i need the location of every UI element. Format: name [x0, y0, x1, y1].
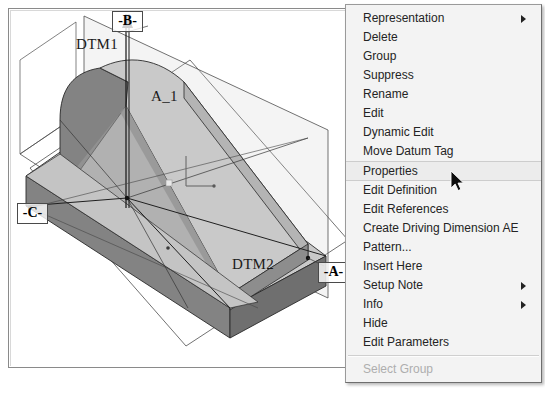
menu-item-label: Edit [363, 106, 384, 120]
menu-item-label: Dynamic Edit [363, 125, 434, 139]
menu-item-label: Setup Note [363, 278, 423, 292]
menu-item-edit-definition[interactable]: Edit Definition [346, 181, 541, 200]
cad-label-dtm1: DTM1 [76, 36, 118, 53]
menu-item-select-group: Select Group [346, 360, 541, 379]
cad-label-axis-a1: A_1 [151, 88, 178, 105]
datum-tag-c[interactable]: -C- [17, 203, 48, 224]
menu-item-delete[interactable]: Delete [346, 28, 541, 47]
screenshot-root: DTM1 DTM2 A_1 -B- -C- -A- Representation… [0, 0, 545, 395]
menu-item-edit-references[interactable]: Edit References [346, 200, 541, 219]
menu-item-representation[interactable]: Representation [346, 9, 541, 28]
menu-item-edit[interactable]: Edit [346, 104, 541, 123]
menu-item-hide[interactable]: Hide [346, 314, 541, 333]
datum-point-marker-4 [166, 246, 170, 250]
menu-item-label: Edit Parameters [363, 335, 449, 349]
menu-item-label: Info [363, 297, 383, 311]
cad-model-svg [8, 8, 368, 368]
menu-item-dynamic-edit[interactable]: Dynamic Edit [346, 123, 541, 142]
menu-item-label: Select Group [363, 362, 433, 376]
menu-item-label: Edit Definition [363, 183, 437, 197]
menu-item-properties[interactable]: Properties [346, 161, 541, 181]
menu-item-label: Create Driving Dimension AE [363, 221, 518, 235]
caption-strip [0, 386, 545, 395]
datum-tag-b[interactable]: -B- [112, 11, 143, 32]
menu-item-label: Rename [363, 87, 408, 101]
datum-point-marker-1 [125, 196, 129, 200]
menu-item-group[interactable]: Group [346, 47, 541, 66]
menu-item-label: Group [363, 49, 396, 63]
menu-item-label: Hide [363, 316, 388, 330]
menu-separator [348, 355, 539, 357]
menu-item-insert-here[interactable]: Insert Here [346, 257, 541, 276]
chevron-right-icon [521, 282, 526, 290]
feature-context-menu[interactable]: Representation Delete Group Suppress Ren… [345, 4, 542, 383]
chevron-right-icon [521, 15, 526, 23]
menu-item-label: Insert Here [363, 259, 422, 273]
menu-item-info[interactable]: Info [346, 295, 541, 314]
menu-item-label: Suppress [363, 68, 414, 82]
menu-item-label: Properties [363, 164, 418, 178]
menu-item-create-driving-dimension-ae[interactable]: Create Driving Dimension AE [346, 219, 541, 238]
menu-item-move-datum-tag[interactable]: Move Datum Tag [346, 142, 541, 161]
menu-item-label: Pattern... [363, 240, 412, 254]
menu-item-label: Delete [363, 30, 398, 44]
menu-item-suppress[interactable]: Suppress [346, 66, 541, 85]
menu-item-pattern[interactable]: Pattern... [346, 238, 541, 257]
menu-item-label: Representation [363, 11, 444, 25]
cad-label-dtm2: DTM2 [232, 256, 274, 273]
chevron-right-icon [521, 301, 526, 309]
menu-item-edit-parameters[interactable]: Edit Parameters [346, 333, 541, 352]
menu-item-setup-note[interactable]: Setup Note [346, 276, 541, 295]
menu-item-label: Edit References [363, 202, 448, 216]
cad-model-canvas[interactable]: DTM1 DTM2 A_1 [8, 8, 368, 368]
menu-item-label: Move Datum Tag [363, 144, 454, 158]
menu-item-rename[interactable]: Rename [346, 85, 541, 104]
